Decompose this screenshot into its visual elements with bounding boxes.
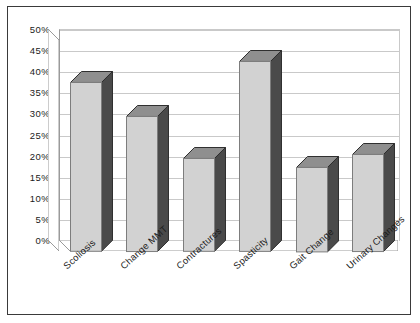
- gridline: [60, 51, 399, 52]
- y-axis-tick-label: 50%: [6, 24, 50, 35]
- bar-side-face: [270, 51, 281, 252]
- y-axis-tick-label: 45%: [6, 45, 50, 56]
- y-axis-tick-label: 35%: [6, 87, 50, 98]
- y-axis-tick-label: 0%: [6, 235, 50, 246]
- bar-column: [239, 50, 281, 251]
- bar-column: [70, 71, 112, 251]
- chart-frame: 50%45%40%35%30%25%20%15%10%5%0% Scoliosi…: [7, 6, 411, 315]
- y-axis: 50%45%40%35%30%25%20%15%10%5%0%: [8, 7, 50, 314]
- gridline: [60, 30, 399, 31]
- bar-side-face: [101, 72, 112, 252]
- bar-front-face: [240, 62, 271, 252]
- y-axis-tick-label: 5%: [6, 213, 50, 224]
- y-axis-tick-label: 15%: [6, 171, 50, 182]
- y-axis-tick-label: 25%: [6, 129, 50, 140]
- y-axis-tick-label: 40%: [6, 66, 50, 77]
- y-axis-tick-label: 10%: [6, 192, 50, 203]
- y-axis-tick-label: 20%: [6, 150, 50, 161]
- y-axis-tick-label: 30%: [6, 108, 50, 119]
- bar-front-face: [71, 83, 102, 252]
